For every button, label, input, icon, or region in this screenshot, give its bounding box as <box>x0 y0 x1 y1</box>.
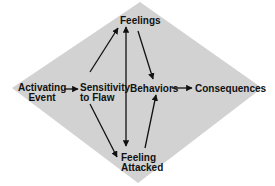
node-activating-event: Activating Event <box>18 83 66 103</box>
node-consequences: Consequences <box>195 84 266 94</box>
node-feeling-attacked-line2: Attacked <box>121 163 163 173</box>
node-sensitivity-line2: to Flaw <box>80 93 130 103</box>
node-activating-event-line2: Event <box>18 93 66 103</box>
node-behaviors: Behaviors <box>130 84 178 94</box>
node-feeling-attacked: Feeling Attacked <box>121 153 163 173</box>
node-sensitivity-to-flaw: Sensitivity to Flaw <box>80 83 130 103</box>
node-feelings: Feelings <box>120 16 161 26</box>
